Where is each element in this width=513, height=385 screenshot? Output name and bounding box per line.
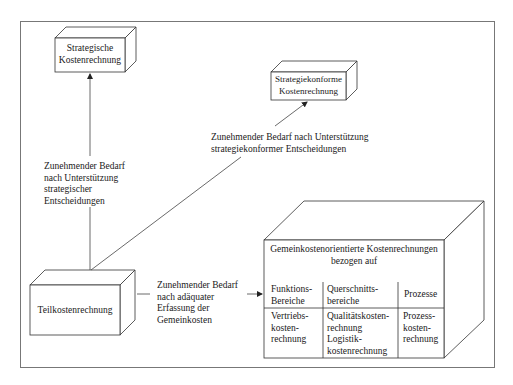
arrow-label-strategic-line: nach Unterstützung bbox=[44, 173, 125, 185]
column-header-line: Bereiche bbox=[271, 296, 312, 308]
column-body-line: rechnung bbox=[327, 323, 389, 335]
box-overhead-title-line2: bezogen auf bbox=[264, 256, 444, 268]
box-strategic: Strategische Kostenrechnung bbox=[55, 43, 125, 66]
column-body-line: Vertriebs- bbox=[271, 311, 308, 323]
column-header-functions: Funktions- Bereiche bbox=[271, 284, 312, 307]
arrow-label-strategy-conform: Zunehmender Bedarf nach Unterstützung st… bbox=[211, 132, 368, 155]
box-strategy-conform: Strategiekonforme Kostenrechnung bbox=[271, 74, 346, 97]
column-body-line: kosten- bbox=[271, 323, 308, 335]
box-overhead-title: Gemeinkostenorientierte Kostenrechnungen… bbox=[264, 244, 444, 267]
box-partial-cost-shape bbox=[30, 270, 135, 335]
arrow-label-overhead-line: Zunehmender Bedarf bbox=[157, 280, 238, 292]
column-body-functions: Vertriebs- kosten- rechnung bbox=[271, 311, 308, 346]
arrow-label-strategic-line: strategischer bbox=[44, 184, 125, 196]
box-overhead-title-line1: Gemeinkostenorientierte Kostenrechnungen bbox=[264, 244, 444, 256]
arrow-label-strategy-conform-line: Zunehmender Bedarf nach Unterstützung bbox=[211, 132, 368, 144]
column-body-line: rechnung bbox=[403, 334, 438, 346]
column-body-line: rechnung bbox=[271, 334, 308, 346]
column-body-line: Prozess- bbox=[403, 311, 438, 323]
box-strategic-line1: Strategische bbox=[55, 43, 125, 55]
column-body-cross-sections: Qualitätskosten- rechnung Logistik- kost… bbox=[327, 311, 389, 357]
arrow-label-strategic-line: Zunehmender Bedarf bbox=[44, 161, 125, 173]
column-body-line: kosten- bbox=[403, 323, 438, 335]
column-header-line: bereiche bbox=[327, 296, 378, 308]
column-body-line: Logistik- bbox=[327, 334, 389, 346]
box-partial-cost: Teilkostenrechnung bbox=[30, 305, 120, 317]
column-body-processes: Prozess- kosten- rechnung bbox=[403, 311, 438, 346]
column-header-line: Prozesse bbox=[404, 289, 437, 301]
column-body-line: kostenrechnung bbox=[327, 346, 389, 358]
box-partial-cost-label: Teilkostenrechnung bbox=[38, 305, 113, 315]
arrow-label-overhead-line: nach adäquater bbox=[157, 292, 238, 304]
arrow-label-strategic: Zunehmender Bedarf nach Unterstützung st… bbox=[44, 161, 125, 207]
column-header-cross-sections: Querschnitts- bereiche bbox=[327, 284, 378, 307]
arrow-label-overhead-line: Erfassung der bbox=[157, 303, 238, 315]
box-strategy-conform-line1: Strategiekonforme bbox=[271, 74, 346, 86]
column-header-line: Funktions- bbox=[271, 284, 312, 296]
box-strategy-conform-line2: Kostenrechnung bbox=[271, 86, 346, 98]
box-strategic-line2: Kostenrechnung bbox=[55, 55, 125, 67]
arrow-label-strategic-line: Entscheidungen bbox=[44, 196, 125, 208]
arrow-label-overhead: Zunehmender Bedarf nach adäquater Erfass… bbox=[157, 280, 238, 326]
arrow-label-overhead-line: Gemeinkosten bbox=[157, 315, 238, 327]
column-body-line: Qualitätskosten- bbox=[327, 311, 389, 323]
arrow-label-strategy-conform-line: strategiekonformer Entscheidungen bbox=[211, 144, 368, 156]
column-header-line: Querschnitts- bbox=[327, 284, 378, 296]
column-header-processes: Prozesse bbox=[404, 289, 437, 301]
